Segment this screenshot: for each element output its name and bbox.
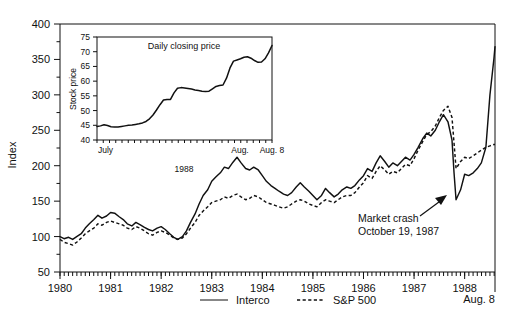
inset-y-tick-label-75: 75: [81, 32, 91, 42]
legend-label-sp500: S&P 500: [333, 294, 376, 306]
inset-y-axis-labels: 4045505560657075: [81, 32, 91, 145]
y-tick-label-400: 400: [32, 18, 50, 30]
inset-y-axis-title: Stock price: [68, 68, 78, 110]
inset-x-label-aug8: Aug. 8: [260, 145, 285, 155]
inset-y-tick-label-40: 40: [81, 135, 91, 145]
y-tick-label-50: 50: [38, 266, 50, 278]
y-tick-label-300: 300: [32, 89, 50, 101]
x-tick-label-1986: 1986: [351, 282, 375, 294]
x-tick-label-1983: 1983: [200, 282, 224, 294]
inset-x-label-aug: Aug.: [231, 145, 249, 155]
inset-y-tick-label-65: 65: [81, 61, 91, 71]
inset-y-tick-label-60: 60: [81, 76, 91, 86]
x-axis-end-label: Aug. 8: [463, 293, 495, 305]
inset-y-axis-ticks: [93, 37, 97, 140]
y-tick-label-250: 250: [32, 124, 50, 136]
annotation-line-1: Market crash: [358, 212, 419, 224]
inset-y-tick-label-55: 55: [81, 91, 91, 101]
y-tick-label-200: 200: [32, 160, 50, 172]
chart-canvas: 50100150200250300350400 Index 1980198119…: [0, 0, 522, 332]
chart-legend: Interco S&P 500: [200, 294, 376, 306]
x-tick-label-1987: 1987: [402, 282, 426, 294]
legend-label-interco: Interco: [236, 294, 270, 306]
inset-chart: Daily closing price 4045505560657075 Sto…: [68, 32, 285, 174]
inset-y-tick-label-45: 45: [81, 120, 91, 130]
market-crash-annotation: Market crash October 19, 1987: [358, 195, 447, 237]
y-tick-label-100: 100: [32, 231, 50, 243]
y-tick-label-150: 150: [32, 195, 50, 207]
annotation-line-2: October 19, 1987: [358, 225, 439, 237]
x-tick-label-1984: 1984: [250, 282, 274, 294]
y-axis-title: Index: [6, 141, 18, 168]
inset-y-tick-label-70: 70: [81, 47, 91, 57]
x-axis-minor-ticks: [60, 272, 494, 276]
x-tick-label-1981: 1981: [98, 282, 122, 294]
x-axis-labels: 198019811982198319841985198619871988: [48, 282, 477, 294]
y-tick-label-350: 350: [32, 53, 50, 65]
y-axis-ticks: [54, 24, 60, 272]
inset-title: Daily closing price: [148, 41, 221, 51]
inset-year-label: 1988: [175, 164, 194, 174]
x-tick-label-1980: 1980: [48, 282, 72, 294]
x-tick-label-1982: 1982: [149, 282, 173, 294]
inset-y-tick-label-50: 50: [81, 106, 91, 116]
x-tick-label-1985: 1985: [301, 282, 325, 294]
y-axis-labels: 50100150200250300350400: [32, 18, 50, 278]
chart-figure: 50100150200250300350400 Index 1980198119…: [0, 0, 522, 332]
inset-x-label-july: July: [98, 145, 114, 155]
x-axis-major-ticks: [60, 272, 465, 279]
